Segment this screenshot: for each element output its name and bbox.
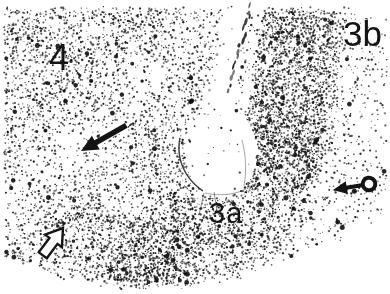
area-4-label: 4	[49, 40, 69, 76]
micrograph-figure: 4 3b 3a	[0, 0, 390, 294]
area-3a-label: 3a	[209, 199, 243, 228]
area-3b-label: 3b	[343, 16, 382, 51]
